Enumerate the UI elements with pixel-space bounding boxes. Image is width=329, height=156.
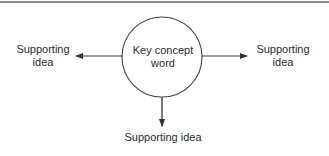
key-concept-line2: word (123, 57, 203, 70)
key-concept-line1: Key concept (123, 44, 203, 57)
supporting-idea-right: Supporting idea (242, 43, 324, 69)
supporting-idea-right-line1: Supporting (242, 43, 324, 56)
supporting-idea-left-line1: Supporting (2, 43, 84, 56)
supporting-idea-right-line2: idea (242, 56, 324, 69)
supporting-idea-left-line2: idea (2, 56, 84, 69)
supporting-idea-bottom-line1: Supporting idea (103, 131, 223, 144)
key-concept-label: Key concept word (123, 44, 203, 70)
supporting-idea-bottom: Supporting idea (103, 131, 223, 144)
supporting-idea-left: Supporting idea (2, 43, 84, 69)
